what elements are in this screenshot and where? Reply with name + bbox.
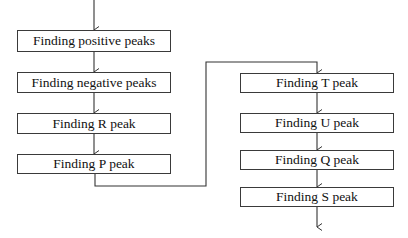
node-label: Finding positive peaks (33, 33, 155, 49)
node-label: Finding S peak (276, 189, 358, 205)
node-finding-t-peak: Finding T peak (240, 73, 394, 93)
node-finding-negative-peaks: Finding negative peaks (17, 72, 171, 93)
node-finding-u-peak: Finding U peak (240, 113, 394, 133)
node-finding-p-peak: Finding P peak (17, 154, 171, 174)
node-finding-q-peak: Finding Q peak (240, 150, 394, 170)
node-label: Finding negative peaks (31, 75, 156, 91)
node-finding-r-peak: Finding R peak (17, 113, 171, 134)
node-label: Finding R peak (52, 116, 135, 132)
node-finding-positive-peaks: Finding positive peaks (17, 30, 171, 52)
node-label: Finding U peak (275, 115, 359, 131)
flowchart: Finding positive peaks Finding negative … (0, 0, 408, 238)
node-label: Finding T peak (276, 75, 358, 91)
node-label: Finding Q peak (275, 152, 359, 168)
node-finding-s-peak: Finding S peak (240, 187, 394, 207)
node-label: Finding P peak (53, 156, 134, 172)
